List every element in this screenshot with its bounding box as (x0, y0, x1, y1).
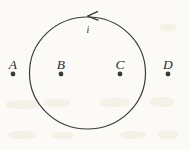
current-direction-arrow-icon (88, 12, 98, 21)
field-point-label-d: D (163, 58, 173, 72)
field-point-dot (166, 72, 171, 77)
field-point-dot (11, 72, 16, 77)
field-point-label-b: B (57, 58, 65, 72)
field-point-label-c: C (115, 58, 124, 72)
field-point-dots (11, 72, 171, 77)
physics-figure: ABCD i (0, 0, 189, 150)
field-point-dot (118, 72, 123, 77)
current-label: i (87, 25, 90, 35)
figure-canvas (0, 0, 189, 150)
field-point-dot (59, 72, 64, 77)
field-point-label-a: A (9, 58, 17, 72)
